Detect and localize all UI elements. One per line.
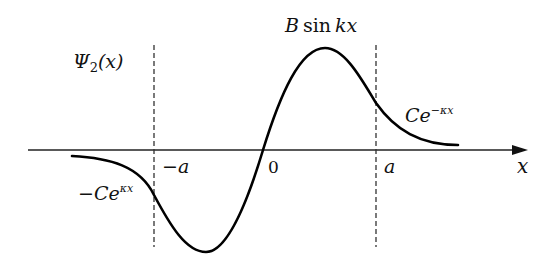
wavefunction-diagram: Ψ2(x) Bsinkx Ce−κx −Ceκx −a 0 a x (0, 0, 547, 270)
function-label: Ψ2(x) (73, 50, 124, 75)
x-axis-label: x (517, 154, 528, 178)
tick-label-a: a (384, 155, 395, 177)
label-neg-c-e-kx: −Ceκx (78, 182, 134, 204)
label-b-sin-kx: Bsinkx (284, 14, 358, 36)
label-c-e-neg-kx: Ce−κx (405, 104, 454, 126)
tick-label-zero: 0 (268, 157, 279, 177)
tick-label-neg-a: −a (162, 155, 189, 177)
